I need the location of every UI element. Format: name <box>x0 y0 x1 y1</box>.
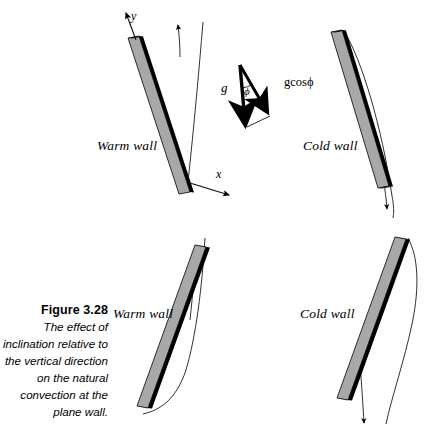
boundary-layer-curve <box>188 22 203 182</box>
panel-top-left-label: Warm wall <box>97 138 157 154</box>
panel-bottom-left-label: Warm wall <box>113 306 173 322</box>
wall-thick-edge <box>342 30 393 187</box>
flow-arrow-up <box>178 25 180 57</box>
warm-wall-plate <box>137 245 210 409</box>
caption-title: Figure 3.28 <box>0 303 108 317</box>
panel-top-right-label: Cold wall <box>303 138 358 154</box>
gravity-component-label: gcosϕ <box>284 75 314 90</box>
caption-body: The effect of inclination relative to th… <box>0 318 108 420</box>
wall-body <box>331 30 389 188</box>
wall-body <box>128 36 190 194</box>
gravity-vector-label: g <box>221 80 228 95</box>
panel-bottom-left <box>137 238 210 414</box>
cold-wall-plate <box>331 30 393 189</box>
wall-thick-edge <box>348 239 410 401</box>
figure-3-28: y x g ϕ gcosϕ Warm wall Cold wall Warm w… <box>0 0 442 433</box>
panel-top-left <box>126 13 229 195</box>
x-axis-arrow <box>190 183 229 195</box>
angle-phi-label: ϕ <box>244 85 250 98</box>
figure-caption: Figure 3.28 The effect of inclination re… <box>0 303 108 420</box>
wall-thick-edge <box>139 36 194 193</box>
wall-thick-edge <box>148 247 210 409</box>
y-axis-label: y <box>131 9 136 23</box>
x-axis-label: x <box>216 167 221 181</box>
vector-triangle-side <box>247 116 270 127</box>
panel-top-right <box>331 30 394 218</box>
panel-bottom-right <box>337 237 417 424</box>
warm-wall-plate <box>128 36 194 194</box>
panel-bottom-right-label: Cold wall <box>300 306 355 322</box>
